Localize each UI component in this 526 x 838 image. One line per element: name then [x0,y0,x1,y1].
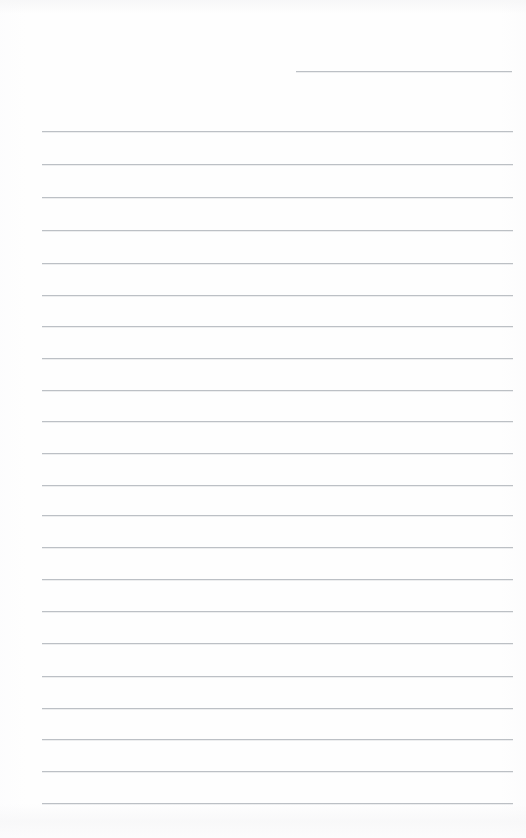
writing-line-22[interactable] [42,775,512,806]
writing-line-11[interactable] [42,425,512,456]
writing-line-08[interactable] [42,330,512,361]
writing-line-05[interactable] [42,235,512,266]
writing-line-02[interactable] [42,136,512,167]
writing-line-19[interactable] [42,680,512,711]
writing-line-16[interactable] [42,583,512,614]
writing-line-06[interactable] [42,267,512,298]
writing-line-21[interactable] [42,743,512,774]
writing-line-01[interactable] [42,103,512,134]
writing-line-10[interactable] [42,393,512,424]
writing-line-20[interactable] [42,711,512,742]
writing-line-14[interactable] [42,519,512,550]
writing-line-04[interactable] [42,202,512,233]
writing-line-17[interactable] [42,615,512,646]
writing-line-07[interactable] [42,298,512,329]
writing-content-area[interactable] [0,0,526,838]
writing-line-18[interactable] [42,648,512,679]
writing-line-15[interactable] [42,551,512,582]
document-page [0,0,526,838]
writing-line-09[interactable] [42,362,512,393]
writing-line-13[interactable] [42,487,512,518]
writing-line-12[interactable] [42,457,512,488]
writing-line-03[interactable] [42,169,512,200]
